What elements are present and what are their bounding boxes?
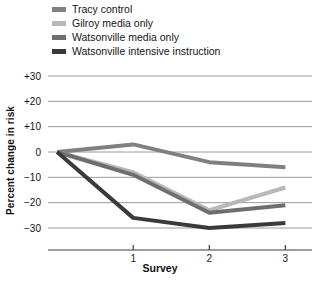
line-chart-svg: +30+20+100−10−20−30 123	[0, 0, 320, 286]
y-tick-label: +10	[24, 121, 41, 132]
series-lines	[57, 144, 285, 228]
x-axis-title: Survey	[0, 262, 320, 274]
y-axis-title-text: Percent change in risk	[5, 106, 16, 215]
y-tick-label: −30	[24, 223, 41, 234]
y-tick-label: −20	[24, 197, 41, 208]
y-tick-label: +20	[24, 96, 41, 107]
y-axis-title: Percent change in risk	[2, 80, 18, 240]
y-tick-label: −10	[24, 172, 41, 183]
x-axis	[48, 245, 312, 250]
y-tick-label: 0	[35, 147, 41, 158]
y-tick-labels: +30+20+100−10−20−30	[24, 71, 41, 234]
plot-area: +30+20+100−10−20−30 123	[0, 0, 320, 286]
chart-figure: Tracy control Gilroy media only Watsonvi…	[0, 0, 320, 286]
y-tick-label: +30	[24, 71, 41, 82]
